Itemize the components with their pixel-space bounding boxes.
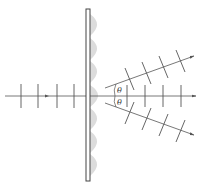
lower-wavefronts: [125, 102, 185, 142]
theta-label-upper: θ: [117, 86, 122, 95]
theta-label-lower: θ: [117, 98, 122, 107]
incoming-direction-arrow-icon: [45, 95, 49, 98]
diffraction-diagram: θ θ: [0, 0, 204, 189]
angle-arc-upper: [114, 84, 116, 96]
intensity-profile: [90, 14, 98, 176]
diffraction-grating: [86, 9, 90, 181]
angle-arc-lower: [114, 96, 116, 107]
